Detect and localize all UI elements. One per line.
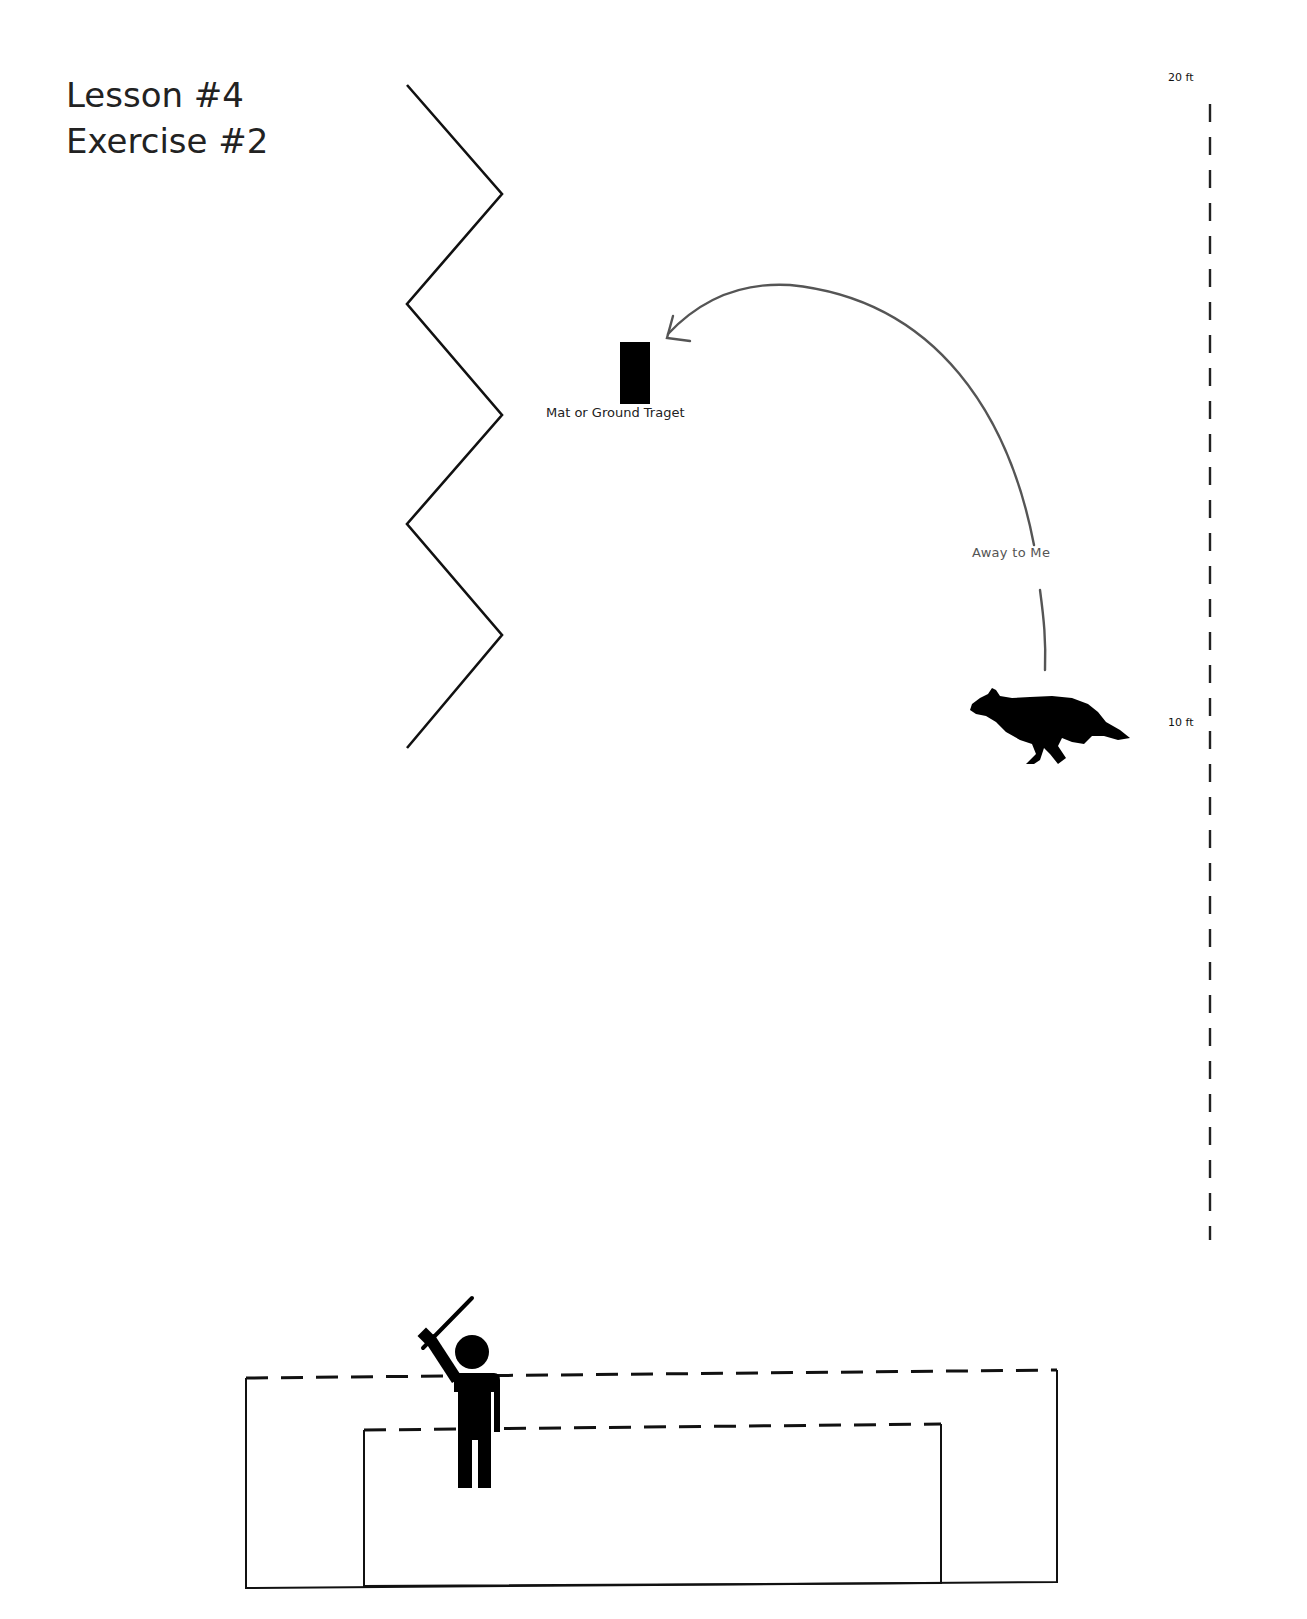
target-mat <box>620 342 650 404</box>
outer-pen <box>246 1370 1057 1588</box>
handler-with-stick-icon <box>418 1298 500 1488</box>
command-label: Away to Me <box>972 545 1050 560</box>
dog-silhouette-icon <box>970 688 1130 764</box>
inner-pen <box>364 1424 941 1586</box>
scale-label-10ft: 10 ft <box>1168 716 1194 729</box>
target-label: Mat or Ground Traget <box>546 405 684 420</box>
arrow-head-icon <box>667 316 690 341</box>
away-to-me-path <box>668 285 1045 670</box>
zigzag-fence <box>407 85 502 748</box>
scale-label-20ft: 20 ft <box>1168 71 1194 84</box>
